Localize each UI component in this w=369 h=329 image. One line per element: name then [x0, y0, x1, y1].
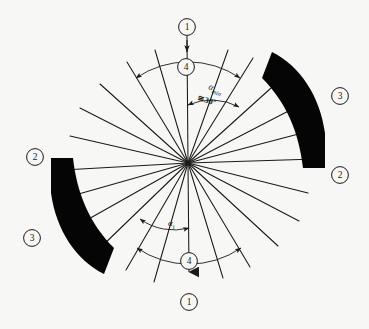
- callout-4-top[interactable]: 4: [178, 59, 195, 76]
- callout-3-right[interactable]: 3: [332, 88, 349, 105]
- callout-label: 2: [338, 170, 343, 180]
- callout-3-left[interactable]: 3: [24, 230, 41, 247]
- callout-1-top[interactable]: 1: [179, 19, 196, 36]
- callout-label: 4: [187, 256, 192, 266]
- alpha-i-subscript: i: [173, 222, 175, 229]
- callout-4-bottom[interactable]: 4: [181, 253, 198, 270]
- diagram-canvas: αmin ≅30° αi 1 4 3 2 2 3 4 1: [0, 0, 369, 329]
- callout-label: 1: [185, 22, 190, 32]
- callout-label: 3: [30, 233, 35, 243]
- callout-label: 4: [184, 62, 189, 72]
- callout-label: 1: [187, 297, 192, 307]
- callout-2-left[interactable]: 2: [27, 149, 44, 166]
- callout-2-right[interactable]: 2: [332, 167, 349, 184]
- callout-label: 3: [338, 91, 343, 101]
- callout-label: 2: [33, 152, 38, 162]
- cutter-head-diagram: αmin ≅30° αi 1 4 3 2 2 3 4 1: [0, 0, 369, 329]
- callout-1-bottom[interactable]: 1: [181, 294, 198, 311]
